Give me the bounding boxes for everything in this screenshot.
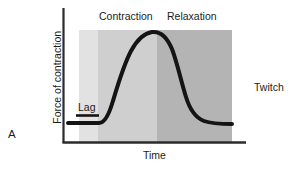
- phase-label-relaxation: Relaxation: [167, 11, 217, 22]
- y-axis-label: Force of contraction: [52, 17, 63, 137]
- twitch-caption-label: Twitch: [254, 82, 284, 93]
- lag-region-band: [79, 30, 98, 143]
- phase-label-contraction: Contraction: [99, 11, 153, 22]
- panel-letter-label: A: [8, 129, 16, 141]
- phase-label-lag: Lag: [78, 102, 96, 113]
- contraction-region-band: [98, 30, 157, 143]
- relaxation-region-band: [157, 30, 232, 143]
- twitch-figure: A Twitch Contraction Relaxation Lag Time…: [0, 0, 304, 179]
- x-axis-label: Time: [143, 150, 166, 161]
